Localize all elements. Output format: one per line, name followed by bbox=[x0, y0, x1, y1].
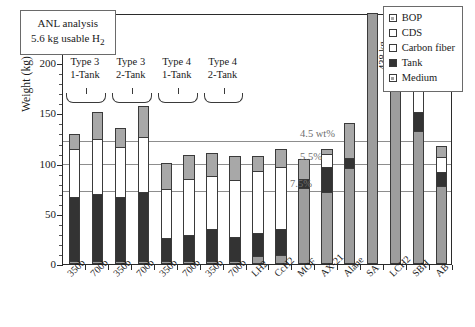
segment-carbon-fiber bbox=[115, 147, 126, 197]
segment-tank bbox=[115, 197, 126, 262]
segment-tank bbox=[275, 229, 286, 256]
y-tick-mark bbox=[57, 215, 63, 216]
y-tick-label: 150 bbox=[18, 108, 56, 119]
segment-bop bbox=[229, 156, 240, 181]
legend-item-bop[interactable]: BOP bbox=[389, 11, 455, 26]
segment-bop bbox=[206, 153, 217, 177]
segment-carbon-fiber bbox=[206, 176, 217, 229]
segment-cds bbox=[252, 171, 263, 233]
group-brace-3 bbox=[204, 93, 244, 103]
segment-carbon-fiber bbox=[161, 189, 172, 239]
swatch-fill bbox=[391, 77, 394, 80]
y-tick-minor bbox=[59, 195, 62, 196]
y-tick-minor bbox=[59, 155, 62, 156]
anl-note-line2-text: 5.6 kg usable H bbox=[31, 32, 100, 44]
y-tick-mark bbox=[57, 64, 63, 65]
segment-medium bbox=[344, 168, 355, 264]
segment-tank bbox=[252, 233, 263, 257]
segment-cds bbox=[275, 167, 286, 229]
swatch-fill bbox=[391, 17, 394, 20]
segment-bop bbox=[69, 134, 80, 150]
y-tick-minor bbox=[59, 255, 62, 256]
segment-tank bbox=[436, 172, 447, 187]
bar-SBH bbox=[413, 73, 424, 264]
segment-medium bbox=[413, 131, 424, 264]
bar-350b bbox=[69, 131, 80, 264]
bar-350b bbox=[161, 161, 172, 264]
legend-item-carbon-fiber[interactable]: Carbon fiber bbox=[389, 41, 455, 56]
segment-bop bbox=[298, 159, 309, 179]
segment-tank bbox=[321, 167, 332, 193]
legend-swatch-icon bbox=[389, 59, 397, 67]
legend-swatch-icon bbox=[389, 29, 397, 37]
bar-CcH2 bbox=[275, 147, 286, 264]
group-title-line2: 2-Tank bbox=[112, 68, 150, 81]
y-tick-minor bbox=[59, 84, 62, 85]
y-tick-minor bbox=[59, 145, 62, 146]
segment-bop bbox=[138, 106, 149, 138]
segment-medium bbox=[436, 186, 447, 264]
y-tick-minor bbox=[59, 134, 62, 135]
segment-bop bbox=[252, 156, 263, 172]
y-tick-minor bbox=[59, 225, 62, 226]
segment-carbon-fiber bbox=[436, 157, 447, 172]
group-title-line1: Type 4 bbox=[158, 55, 196, 68]
y-tick-label: 100 bbox=[18, 159, 56, 170]
group-title-3: Type 42-Tank bbox=[204, 55, 242, 81]
legend-swatch-icon bbox=[389, 14, 397, 22]
segment-carbon-fiber bbox=[138, 137, 149, 192]
segment-carbon-fiber bbox=[92, 139, 103, 194]
segment-tank bbox=[413, 112, 424, 132]
gridline-label: 4.5 wt% bbox=[300, 128, 335, 139]
segment-bop bbox=[344, 123, 355, 159]
bar-350b bbox=[206, 151, 217, 264]
segment-medium bbox=[321, 192, 332, 264]
y-tick-minor bbox=[59, 74, 62, 75]
y-tick-minor bbox=[59, 175, 62, 176]
segment-carbon-fiber bbox=[321, 154, 332, 167]
y-tick-mark bbox=[57, 265, 63, 266]
group-title-line2: 1-Tank bbox=[66, 68, 104, 81]
legend-label: Carbon fiber bbox=[402, 41, 455, 56]
legend-item-medium[interactable]: Medium bbox=[389, 71, 455, 86]
segment-medium bbox=[298, 188, 309, 264]
segment-carbon-fiber bbox=[229, 180, 240, 237]
segment-bop bbox=[183, 155, 194, 180]
y-tick-minor bbox=[59, 124, 62, 125]
group-title-0: Type 31-Tank bbox=[66, 55, 104, 81]
anl-note-line1: ANL analysis bbox=[31, 16, 105, 31]
x-tick-mark bbox=[383, 265, 384, 270]
bar-MOF bbox=[298, 158, 309, 264]
bar-700b bbox=[92, 109, 103, 264]
segment-medium bbox=[390, 85, 401, 264]
h2-subscript: 2 bbox=[100, 37, 105, 47]
y-tick-mark bbox=[57, 165, 63, 166]
bar-350b bbox=[115, 125, 126, 264]
segment-bop bbox=[275, 149, 286, 168]
legend-label: Medium bbox=[402, 71, 438, 86]
bar-700b bbox=[183, 153, 194, 264]
group-title-1: Type 32-Tank bbox=[112, 55, 150, 81]
segment-tank bbox=[138, 192, 149, 262]
legend-label: Tank bbox=[402, 56, 423, 71]
segment-tank bbox=[69, 197, 80, 262]
legend-item-cds[interactable]: CDS bbox=[389, 26, 455, 41]
gridline-label: 5.5% bbox=[300, 151, 322, 162]
y-tick-minor bbox=[59, 94, 62, 95]
group-brace-1 bbox=[112, 93, 152, 103]
group-brace-0 bbox=[66, 93, 106, 103]
legend-swatch-icon bbox=[389, 44, 397, 52]
bar-700b bbox=[138, 103, 149, 264]
chart-figure: Weight (kg) 050100150200250 350b700b350b… bbox=[0, 0, 475, 327]
anl-note-line2: 5.6 kg usable H2 bbox=[31, 31, 105, 49]
y-tick-minor bbox=[59, 235, 62, 236]
x-tick-mark bbox=[452, 265, 453, 270]
legend-item-tank[interactable]: Tank bbox=[389, 56, 455, 71]
segment-bop bbox=[92, 112, 103, 140]
group-title-line1: Type 3 bbox=[66, 55, 104, 68]
y-tick-mark bbox=[57, 114, 63, 115]
chart-legend: BOPCDSCarbon fiberTankMedium bbox=[383, 6, 463, 92]
y-tick-label: 200 bbox=[18, 58, 56, 69]
y-tick-minor bbox=[59, 104, 62, 105]
y-tick-minor bbox=[59, 185, 62, 186]
